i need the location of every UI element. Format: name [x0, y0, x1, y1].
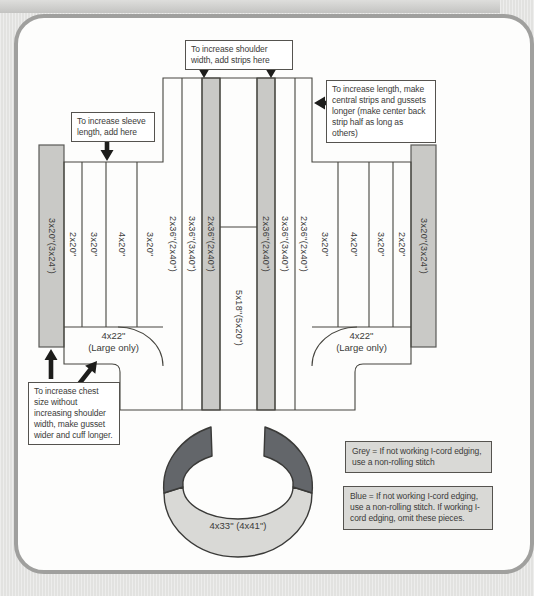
callout-sleeve-length: To increase sleeve length, add here — [71, 112, 155, 142]
strip-label: 3x20" — [87, 162, 101, 327]
strip-label-left-cuff: 3x20"(3x24") — [45, 145, 59, 347]
gusset-note: (Large only) — [314, 342, 409, 354]
callout-length: To increase length, make central strips … — [326, 80, 436, 143]
gusset-label-right: 4x22" (Large only) — [314, 330, 409, 353]
collar-end-left — [164, 427, 212, 493]
strip-label: 3x20" — [374, 162, 388, 327]
arrow-up-cuff — [45, 349, 58, 379]
strip-label: 4x20" — [347, 162, 361, 327]
collar-label: 4x33" (4x41") — [188, 520, 288, 531]
strip-label: 3x36"(3x40") — [185, 78, 199, 410]
callout-chest-size: To increase chest size without increasin… — [28, 382, 120, 445]
callout-shoulder-width: To increase shoulder width, add strips h… — [185, 40, 293, 70]
strip-label: 2x20" — [395, 162, 409, 327]
strip-label: 2x36"(2x40") — [166, 78, 180, 410]
strip-label: 3x20" — [318, 162, 332, 327]
strip-label: 2x20" — [66, 162, 80, 327]
legend-grey: Grey = If not working I-cord edging, use… — [345, 441, 492, 473]
strip-label: 4x20" — [115, 162, 129, 327]
legend-blue: Blue = If not working I-cord edging, use… — [343, 486, 493, 530]
strip-label: 2x36"(2x40") — [297, 78, 311, 410]
collar-end-right — [264, 427, 312, 493]
strip-label: 3x36"(3x40") — [278, 78, 292, 410]
gusset-size: 4x22" — [66, 330, 161, 342]
strip-label-right-cuff: 3x20"(3x24") — [417, 145, 431, 347]
strip-label: 2x36"(2x40") — [259, 78, 273, 410]
gusset-label-left: 4x22" (Large only) — [66, 330, 161, 353]
strip-label-center-back: 5x18"(5x20") — [232, 227, 246, 410]
gusset-size: 4x22" — [314, 330, 409, 342]
strip-label: 3x20" — [143, 162, 157, 327]
gusset-note: (Large only) — [66, 342, 161, 354]
strip-label: 2x36"(2x40") — [204, 78, 218, 410]
